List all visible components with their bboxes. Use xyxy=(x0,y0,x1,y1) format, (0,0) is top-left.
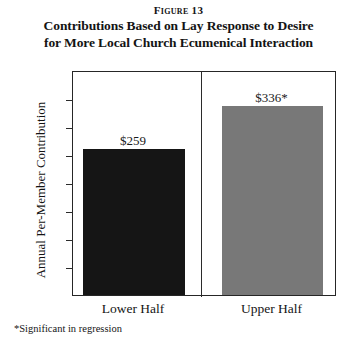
bar-value-label: $259 xyxy=(82,133,184,149)
y-axis-tick xyxy=(66,184,73,185)
y-axis-tick xyxy=(66,240,73,241)
footnote: *Significant in regression xyxy=(14,323,122,334)
bar xyxy=(222,106,323,295)
x-axis-category-label: Upper Half xyxy=(209,301,334,317)
bar xyxy=(83,149,185,295)
y-axis-tick xyxy=(66,128,73,129)
category-divider xyxy=(201,72,202,297)
y-axis-tick xyxy=(66,100,73,101)
y-axis-tick xyxy=(66,268,73,269)
figure-title-line-2: for More Local Church Ecumenical Interac… xyxy=(0,35,357,51)
figure-number-label: Figure 13 xyxy=(0,4,357,16)
x-axis-category-label: Lower Half xyxy=(70,301,196,317)
bar-value-label: $336* xyxy=(221,90,322,106)
figure-container: Figure 13 Contributions Based on Lay Res… xyxy=(0,0,357,346)
y-axis-tick xyxy=(66,156,73,157)
y-axis-title: Annual Per-Member Contribution xyxy=(33,75,49,305)
figure-title-line-1: Contributions Based on Lay Response to D… xyxy=(0,18,357,34)
y-axis-tick xyxy=(66,212,73,213)
